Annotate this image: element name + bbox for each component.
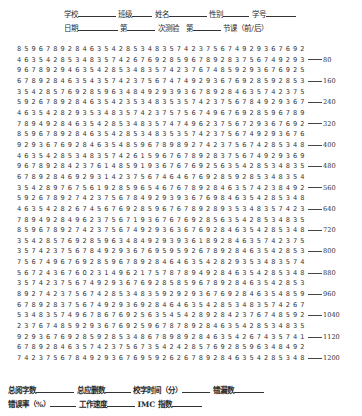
digit[interactable]: 8	[126, 129, 133, 140]
digit[interactable]: 2	[46, 246, 53, 257]
digit[interactable]: 8	[97, 310, 104, 321]
digit[interactable]: 3	[300, 55, 307, 66]
digit[interactable]: 8	[206, 87, 213, 98]
digit[interactable]: 8	[213, 204, 220, 215]
digit[interactable]: 3	[97, 215, 104, 226]
digit[interactable]: 8	[141, 119, 148, 130]
digit[interactable]: 7	[17, 353, 24, 364]
digit[interactable]: 7	[293, 87, 300, 98]
digit[interactable]: 3	[97, 55, 104, 66]
digit[interactable]: 6	[61, 332, 68, 343]
digit[interactable]: 9	[97, 278, 104, 289]
digit[interactable]: 6	[24, 204, 31, 215]
digit[interactable]: 2	[82, 87, 89, 98]
digit[interactable]: 6	[257, 342, 264, 353]
digit[interactable]: 9	[162, 87, 169, 98]
digit[interactable]: 3	[264, 119, 271, 130]
digit[interactable]: 6	[184, 300, 191, 311]
digit[interactable]: 8	[220, 268, 227, 279]
digit[interactable]: 4	[46, 55, 53, 66]
digit[interactable]: 9	[32, 215, 39, 226]
digit[interactable]: 5	[104, 44, 111, 55]
digit[interactable]: 8	[111, 65, 118, 76]
digit[interactable]: 9	[126, 321, 133, 332]
digit[interactable]: 7	[271, 65, 278, 76]
digit[interactable]: 3	[184, 65, 191, 76]
digit[interactable]: 7	[206, 246, 213, 257]
digit[interactable]: 9	[104, 300, 111, 311]
digit[interactable]: 2	[155, 193, 162, 204]
digit[interactable]: 1	[104, 161, 111, 172]
digit[interactable]: 3	[133, 76, 140, 87]
digit[interactable]: 9	[68, 140, 75, 151]
digit[interactable]: 5	[264, 321, 271, 332]
digit[interactable]: 6	[170, 300, 177, 311]
digit[interactable]: 3	[32, 151, 39, 162]
digit[interactable]: 6	[68, 76, 75, 87]
digit[interactable]: 7	[242, 97, 249, 108]
digit[interactable]: 7	[242, 119, 249, 130]
digit[interactable]: 7	[75, 193, 82, 204]
digit[interactable]: 9	[17, 161, 24, 172]
digit[interactable]: 9	[90, 353, 97, 364]
digit[interactable]: 6	[184, 353, 191, 364]
digit[interactable]: 6	[286, 44, 293, 55]
digit[interactable]: 8	[271, 225, 278, 236]
digit[interactable]: 6	[220, 321, 227, 332]
digit[interactable]: 6	[177, 161, 184, 172]
digit[interactable]: 5	[279, 225, 286, 236]
digit[interactable]: 4	[90, 278, 97, 289]
digit[interactable]: 9	[286, 65, 293, 76]
digit[interactable]: 7	[264, 236, 271, 247]
digit[interactable]: 8	[213, 151, 220, 162]
digit[interactable]: 6	[119, 193, 126, 204]
digit[interactable]: 4	[264, 332, 271, 343]
digit[interactable]: 2	[119, 44, 126, 55]
digit[interactable]: 9	[148, 161, 155, 172]
digit[interactable]: 5	[90, 65, 97, 76]
digit[interactable]: 3	[82, 119, 89, 130]
digit[interactable]: 9	[162, 236, 169, 247]
digit[interactable]: 5	[257, 236, 264, 247]
digit[interactable]: 9	[177, 193, 184, 204]
digit[interactable]: 4	[97, 119, 104, 130]
digit[interactable]: 3	[271, 321, 278, 332]
digit[interactable]: 1	[141, 161, 148, 172]
digit[interactable]: 1	[133, 215, 140, 226]
digit[interactable]: 6	[75, 257, 82, 268]
digit[interactable]: 9	[75, 236, 82, 247]
digit[interactable]: 4	[286, 204, 293, 215]
digit[interactable]: 8	[250, 97, 257, 108]
digit[interactable]: 8	[271, 193, 278, 204]
digit[interactable]: 3	[148, 119, 155, 130]
digit[interactable]: 7	[46, 97, 53, 108]
digit[interactable]: 8	[90, 151, 97, 162]
digit[interactable]: 5	[286, 257, 293, 268]
digit[interactable]: 5	[133, 44, 140, 55]
digit[interactable]: 9	[155, 204, 162, 215]
digit[interactable]: 5	[228, 172, 235, 183]
digit[interactable]: 3	[119, 87, 126, 98]
digit[interactable]: 3	[286, 151, 293, 162]
digit[interactable]: 7	[162, 65, 169, 76]
digit[interactable]: 3	[293, 215, 300, 226]
digit[interactable]: 2	[39, 183, 46, 194]
digit[interactable]: 3	[257, 65, 264, 76]
digit[interactable]: 2	[264, 225, 271, 236]
digit[interactable]: 2	[46, 300, 53, 311]
digit[interactable]: 7	[199, 55, 206, 66]
digit[interactable]: 7	[90, 289, 97, 300]
digit[interactable]: 2	[104, 65, 111, 76]
digit[interactable]: 8	[126, 140, 133, 151]
digit[interactable]: 4	[111, 268, 118, 279]
digit[interactable]: 8	[213, 183, 220, 194]
digit[interactable]: 9	[213, 87, 220, 98]
digit[interactable]: 7	[177, 321, 184, 332]
digit[interactable]: 7	[279, 204, 286, 215]
digit[interactable]: 2	[90, 257, 97, 268]
digit[interactable]: 8	[141, 204, 148, 215]
digit[interactable]: 7	[177, 268, 184, 279]
digit[interactable]: 3	[32, 204, 39, 215]
digit[interactable]: 6	[39, 97, 46, 108]
digit[interactable]: 8	[82, 140, 89, 151]
